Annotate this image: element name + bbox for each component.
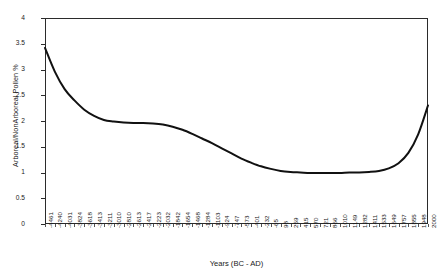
- y-tick-label: 1: [0, 169, 25, 176]
- y-tick-label: 2: [0, 118, 25, 125]
- y-tick-label: 3: [0, 66, 25, 73]
- x-tick-label: 1948: [421, 214, 427, 228]
- x-tick-label: 98: [283, 221, 289, 228]
- x-tick-label: 1282: [362, 214, 368, 228]
- x-tick-label: -3413: [97, 212, 103, 228]
- x-tick-label: -3618: [87, 212, 93, 228]
- x-tick-mark: [310, 224, 311, 227]
- x-tick-label: 1010: [342, 214, 348, 228]
- x-tick-label: 1757: [401, 214, 407, 228]
- plot-area: [45, 18, 428, 224]
- x-tick-mark: [261, 224, 262, 227]
- x-tick-label: -1103: [215, 213, 221, 228]
- x-axis-title: Years (BC - AD): [45, 260, 428, 268]
- x-tick-label: -2032: [165, 212, 171, 228]
- x-tick-label: -747: [234, 216, 240, 228]
- x-tick-label: 1149: [352, 215, 358, 228]
- x-tick-label: 2000: [431, 214, 437, 228]
- y-tick-label: 1.5: [0, 143, 25, 150]
- x-tick-label: 1855: [411, 214, 417, 228]
- y-tick-label: 0: [0, 221, 25, 228]
- x-tick-label: 1533: [381, 214, 387, 228]
- x-tick-label: -4240: [57, 212, 63, 228]
- pollen-ratio-chart: Arboreal/NonArboreal Pollen % 00.511.522…: [0, 0, 446, 277]
- x-tick-label: 866: [332, 218, 338, 228]
- x-tick-label: -2810: [126, 212, 132, 228]
- x-tick-label: -4461: [48, 212, 54, 228]
- x-tick-mark: [212, 224, 213, 227]
- x-tick-mark: [94, 224, 95, 227]
- x-tick-mark: [369, 224, 370, 227]
- x-tick-label: -3211: [107, 213, 113, 228]
- x-tick-label: -3824: [77, 212, 83, 228]
- x-tick-label: 721: [323, 218, 329, 228]
- x-tick-mark: [202, 224, 203, 227]
- x-tick-label: -1842: [175, 212, 181, 228]
- x-tick-mark: [428, 224, 429, 227]
- x-tick-label: -401: [254, 216, 260, 228]
- x-tick-label: 1411: [372, 215, 378, 228]
- x-tick-label: -924: [224, 216, 230, 228]
- x-tick-label: -2417: [146, 212, 152, 228]
- x-tick-mark: [320, 224, 321, 227]
- x-tick-label: 415: [303, 218, 309, 228]
- x-tick-label: 570: [313, 218, 319, 228]
- x-tick-label: 259: [293, 218, 299, 228]
- x-tick-label: -1468: [195, 212, 201, 228]
- x-tick-label: -1654: [185, 212, 191, 228]
- x-tick-label: -1284: [205, 212, 211, 228]
- x-tick-label: -2613: [136, 212, 142, 228]
- y-tick-label: 4: [0, 15, 25, 22]
- y-tick-label: 2.5: [0, 92, 25, 99]
- x-tick-mark: [45, 224, 46, 227]
- x-tick-label: -232: [264, 216, 270, 228]
- x-tick-mark: [153, 224, 154, 227]
- y-tick-label: 3.5: [0, 40, 25, 47]
- x-tick-label: -4031: [67, 212, 73, 228]
- x-tick-label: -2223: [156, 212, 162, 228]
- x-tick-label: 1649: [391, 214, 397, 228]
- y-axis-title: Arboreal/NonArboreal Pollen %: [12, 26, 19, 206]
- x-tick-mark: [104, 224, 105, 227]
- x-tick-label: -3010: [116, 212, 122, 228]
- x-tick-label: -573: [244, 216, 250, 228]
- x-tick-label: -65: [273, 219, 279, 228]
- y-tick-label: 0.5: [0, 195, 25, 202]
